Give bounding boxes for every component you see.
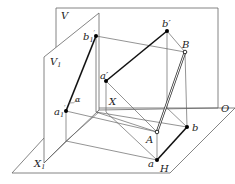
label-b: b [192, 122, 198, 133]
label-alpha: α [75, 95, 81, 104]
label-a: a [148, 158, 154, 169]
label-ap: a′ [100, 70, 109, 81]
point-A [155, 130, 159, 134]
diagram-canvas: V V1 b1′ a1′ b′ a′ B A b a H X O X1 α [0, 0, 235, 184]
segment-AB-inner [157, 52, 185, 132]
point-B [183, 50, 187, 54]
label-o: O [221, 103, 229, 114]
label-v-plane: V [61, 10, 70, 21]
point-a [155, 158, 159, 162]
point-bp [165, 29, 169, 33]
label-bp: b′ [162, 18, 171, 29]
label-x1-axis: X1 [33, 158, 45, 171]
label-x-axis: X [108, 96, 117, 107]
label-A: A [145, 134, 153, 145]
projection-diagram: V V1 b1′ a1′ b′ a′ B A b a H X O X1 α [0, 0, 235, 184]
point-b [185, 125, 189, 129]
label-B: B [181, 39, 189, 50]
label-h-plane: H [159, 163, 169, 174]
